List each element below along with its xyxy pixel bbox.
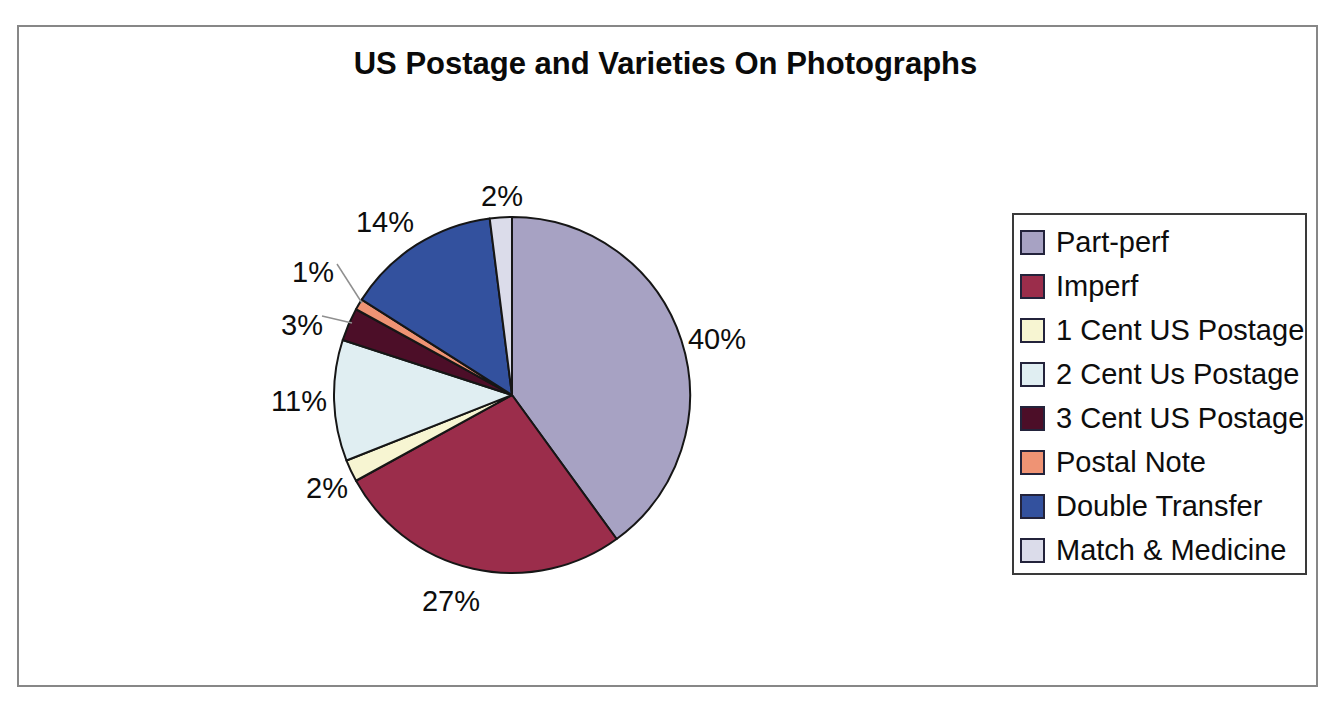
legend-box: Part-perfImperf1 Cent US Postage2 Cent U… <box>1012 213 1307 575</box>
legend-item-imperf: Imperf <box>1020 264 1305 308</box>
pie-label-2-cent-us-postage: 11% <box>271 385 327 417</box>
pie-label-1-cent-us-postage: 2% <box>306 472 348 504</box>
legend-swatch-imperf <box>1020 274 1045 299</box>
legend-item-match-medicine: Match & Medicine <box>1020 528 1305 572</box>
pie-label-3-cent-us-postage: 3% <box>281 309 323 341</box>
legend-item-3-cent-us-postage: 3 Cent US Postage <box>1020 396 1305 440</box>
legend-swatch-1-cent-us-postage <box>1020 318 1045 343</box>
pie-label-postal-note: 1% <box>292 256 334 288</box>
pie-label-match-medicine: 2% <box>481 180 523 212</box>
legend-swatch-postal-note <box>1020 450 1045 475</box>
legend-label: Postal Note <box>1056 446 1206 479</box>
legend-item-double-transfer: Double Transfer <box>1020 484 1305 528</box>
legend-item-2-cent-us-postage: 2 Cent Us Postage <box>1020 352 1305 396</box>
legend-swatch-double-transfer <box>1020 494 1045 519</box>
legend-label: Match & Medicine <box>1056 534 1287 567</box>
legend-label: 2 Cent Us Postage <box>1056 358 1299 391</box>
legend-label: Imperf <box>1056 270 1138 303</box>
leader-line-3-cent-us-postage <box>322 316 352 323</box>
legend-item-part-perf: Part-perf <box>1020 220 1305 264</box>
legend-swatch-match-medicine <box>1020 538 1045 563</box>
legend-label: Double Transfer <box>1056 490 1262 523</box>
pie-label-part-perf: 40% <box>688 323 746 355</box>
pie-label-double-transfer: 14% <box>356 206 414 238</box>
legend-item-1-cent-us-postage: 1 Cent US Postage <box>1020 308 1305 352</box>
legend-swatch-part-perf <box>1020 230 1045 255</box>
legend-swatch-2-cent-us-postage <box>1020 362 1045 387</box>
pie-label-imperf: 27% <box>422 585 480 617</box>
legend-label: Part-perf <box>1056 226 1169 259</box>
legend-label: 3 Cent US Postage <box>1056 402 1304 435</box>
legend-item-postal-note: Postal Note <box>1020 440 1305 484</box>
leader-line-postal-note <box>337 264 362 303</box>
legend-label: 1 Cent US Postage <box>1056 314 1304 347</box>
legend-swatch-3-cent-us-postage <box>1020 406 1045 431</box>
scanned-pie-chart-page: US Postage and Varieties On Photographs … <box>0 0 1331 708</box>
